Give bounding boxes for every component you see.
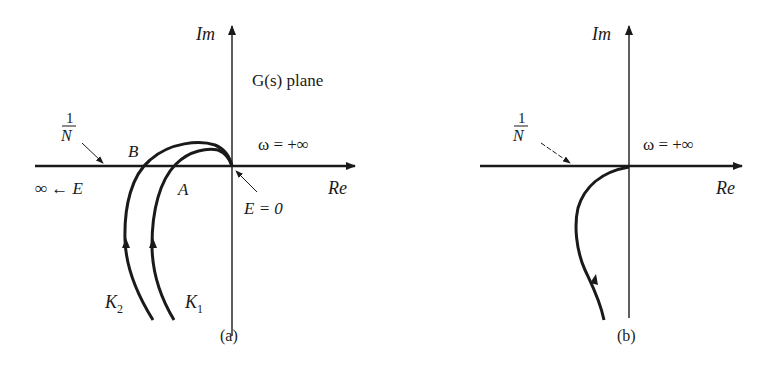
panel-b: Im ω = +∞ 1 N Re (b) bbox=[480, 24, 742, 345]
im-label-b: Im bbox=[591, 24, 611, 44]
point-a-label: A bbox=[177, 180, 189, 199]
re-label-a: Re bbox=[327, 178, 347, 198]
caption-a: (a) bbox=[220, 327, 238, 345]
infinity-e-label: ∞ ← E bbox=[35, 179, 84, 198]
k1-label: K1 bbox=[184, 292, 203, 316]
one-over-n-pointer-a bbox=[82, 143, 103, 163]
one-over-n-numerator-b: 1 bbox=[518, 110, 526, 126]
k2-direction-arrow-icon bbox=[122, 238, 130, 248]
point-b-label: B bbox=[128, 142, 139, 161]
g-locus-curve-b bbox=[576, 167, 629, 320]
k1-direction-arrow-icon bbox=[149, 238, 157, 248]
im-label-a: Im bbox=[195, 24, 215, 44]
e-zero-pointer bbox=[236, 171, 257, 192]
describing-function-diagram: Im G(s) plane ω = +∞ 1 N B A ∞ ← E Re E … bbox=[0, 0, 775, 365]
k2-label: K2 bbox=[104, 292, 123, 316]
k2-locus-curve bbox=[125, 143, 232, 320]
gs-plane-label: G(s) plane bbox=[252, 71, 323, 90]
e-zero-label: E = 0 bbox=[243, 199, 283, 218]
omega-label-b: ω = +∞ bbox=[643, 135, 694, 154]
one-over-n-denominator-a: N bbox=[60, 127, 73, 144]
one-over-n-numerator-a: 1 bbox=[66, 110, 74, 126]
re-label-b: Re bbox=[715, 178, 735, 198]
panel-a: Im G(s) plane ω = +∞ 1 N B A ∞ ← E Re E … bbox=[35, 24, 355, 345]
one-over-n-pointer-b bbox=[541, 143, 570, 163]
caption-b: (b) bbox=[617, 327, 636, 345]
omega-label-a: ω = +∞ bbox=[258, 135, 309, 154]
one-over-n-denominator-b: N bbox=[512, 127, 525, 144]
